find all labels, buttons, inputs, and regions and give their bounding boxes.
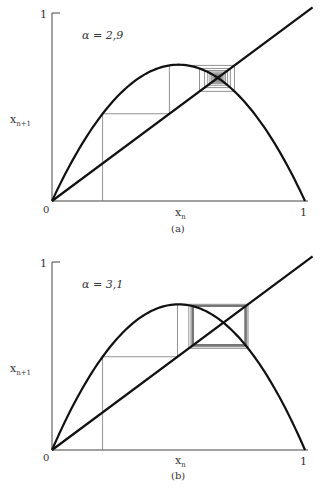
x-tick-label-1: 1 [300,206,307,219]
y-axis-label: xn+1 [10,362,31,377]
y-axis-label-sub: n+1 [16,369,31,377]
figure: 1 α = 2,9 xn+1 0 xn 1 (a) 1 α = 3,1 xn+1… [0,0,321,493]
x-tick-label-0: 0 [43,204,49,215]
y-axis-label: xn+1 [10,113,31,128]
panel-label: (a) [171,223,185,234]
x-axis-label: xn [175,206,186,221]
y-tick-label-1: 1 [40,257,47,270]
chart-panel-b: 1 α = 3,1 xn+1 0 xn 1 (b) [10,256,313,481]
panel-label: (b) [171,470,185,481]
alpha-annotation: α = 2,9 [82,29,123,42]
x-axis-label-sub: n [181,213,186,221]
cobweb-path [103,65,235,201]
x-tick-label-0: 0 [43,452,49,463]
x-axis-label: xn [175,454,186,469]
y-axis-label-sub: n+1 [16,120,31,128]
logistic-curve [52,65,305,201]
x-tick-label-1: 1 [300,455,307,468]
alpha-annotation: α = 3,1 [82,278,123,291]
chart-panel-a: 1 α = 2,9 xn+1 0 xn 1 (a) [10,7,313,234]
y-tick-label-1: 1 [40,8,47,21]
logistic-curve [52,304,305,450]
x-axis-label-sub: n [181,461,186,469]
